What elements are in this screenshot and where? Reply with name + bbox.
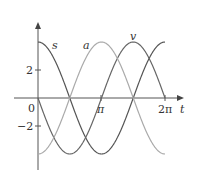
series-label-v: v	[130, 30, 137, 43]
x-tick-label-pi: π	[96, 103, 105, 116]
series-label-a: a	[83, 39, 90, 52]
x-axis-label-t: t	[180, 103, 185, 116]
chart: 2 −2 0 π 2π t s a v	[0, 0, 199, 183]
y-tick-label-neg2: −2	[17, 120, 33, 133]
x-axis-arrow-icon	[177, 95, 184, 101]
y-tick-label-2: 2	[26, 64, 33, 77]
x-tick-label-0: 0	[28, 102, 35, 115]
y-axis-arrow-icon	[35, 22, 41, 29]
x-tick-label-2pi: 2π	[158, 103, 172, 116]
series-label-s: s	[52, 39, 58, 52]
